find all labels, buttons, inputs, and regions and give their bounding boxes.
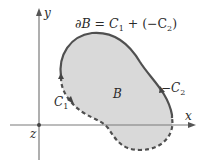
y-axis-label: y: [43, 6, 51, 20]
c2-label: −C2: [161, 81, 185, 97]
diagram-svg: ∂B = C1 + (−C2) y x z B C1 −C2: [0, 0, 204, 164]
x-axis-label: x: [185, 109, 192, 123]
region-label: B: [112, 87, 122, 101]
origin-point: [37, 123, 41, 127]
boundary-equation: ∂B = C1 + (−C2): [75, 16, 177, 33]
boundary-diagram: ∂B = C1 + (−C2) y x z B C1 −C2: [0, 0, 204, 164]
y-axis-arrow-icon: [36, 8, 42, 16]
c1-label: C1: [54, 95, 68, 111]
origin-label: z: [29, 127, 37, 141]
